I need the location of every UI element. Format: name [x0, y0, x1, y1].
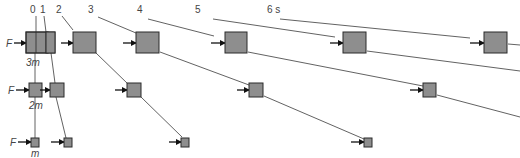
block-3m-t2 — [73, 32, 96, 53]
block-3m-t4 — [225, 32, 247, 53]
block-2m-t3 — [249, 83, 263, 97]
time-label-2: 2 — [56, 4, 62, 15]
force-label-3m: F — [6, 38, 13, 49]
time-label-4: 4 — [137, 4, 143, 15]
time-label-0: 0 — [30, 4, 36, 15]
time-label-5: 5 — [195, 4, 201, 15]
time-guide-lines — [35, 16, 520, 139]
block-m-t3 — [364, 138, 372, 147]
block-3m-t3 — [136, 32, 159, 53]
time-label-3: 3 — [88, 4, 94, 15]
mass-label-m: m — [31, 148, 39, 158]
time-labels: 0 1 2 3 4 5 6 s — [30, 4, 280, 15]
diagram-canvas: 0 1 2 3 4 5 6 s F — [0, 0, 520, 158]
time-label-6: 6 s — [267, 4, 280, 15]
row-2m: F 2m — [8, 83, 436, 111]
row-3m: F 3m — [6, 32, 507, 68]
force-label-m: F — [10, 137, 17, 148]
block-3m-t0-t1 — [26, 32, 48, 53]
row-m: F m — [10, 137, 372, 158]
block-2m-t2 — [127, 83, 141, 97]
mass-label-2m: 2m — [28, 100, 43, 111]
block-m-t0 — [31, 138, 39, 147]
block-2m-t1 — [50, 83, 64, 97]
block-3m-t6 — [484, 32, 507, 53]
block-2m-t4 — [423, 83, 436, 97]
mass-label-3m: 3m — [26, 57, 40, 68]
block-m-t1 — [64, 138, 72, 147]
block-m-t2 — [181, 138, 189, 147]
force-label-2m: F — [8, 85, 15, 96]
block-3m-t5 — [343, 32, 366, 53]
time-label-1: 1 — [40, 4, 46, 15]
